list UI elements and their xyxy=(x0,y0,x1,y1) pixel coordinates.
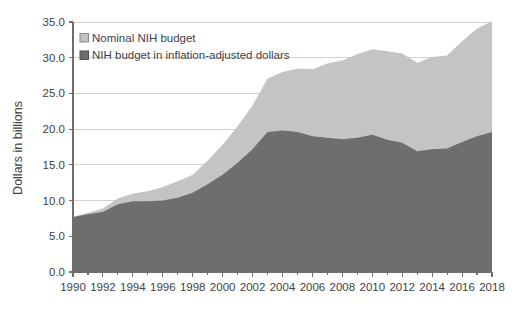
y-axis-title: Dollars in billions xyxy=(11,101,25,195)
y-axis-ticks-group: 0.05.010.015.020.025.030.035.0 xyxy=(43,16,73,278)
area-chart: 0.05.010.015.020.025.030.035.0 199019921… xyxy=(0,0,520,309)
x-tick-label-1994: 1994 xyxy=(120,281,146,293)
legend: Nominal NIH budget NIH budget in inflati… xyxy=(80,32,290,62)
y-axis-title-group: Dollars in billions xyxy=(11,101,25,195)
x-tick-label-2010: 2010 xyxy=(359,281,385,293)
x-tick-label-2000: 2000 xyxy=(210,281,236,293)
x-tick-label-2016: 2016 xyxy=(449,281,475,293)
x-tick-label-1992: 1992 xyxy=(90,281,116,293)
legend-swatch-nominal xyxy=(80,34,89,43)
legend-label-inflation-adjusted: NIH budget in inflation-adjusted dollars xyxy=(92,49,290,61)
y-tick-label-15.0: 15.0 xyxy=(43,159,65,171)
x-tick-label-2004: 2004 xyxy=(270,281,296,293)
y-tick-label-35.0: 35.0 xyxy=(43,16,65,28)
legend-label-nominal: Nominal NIH budget xyxy=(92,32,196,44)
x-tick-label-2014: 2014 xyxy=(419,281,445,293)
chart-container: 0.05.010.015.020.025.030.035.0 199019921… xyxy=(0,0,520,309)
y-tick-label-20.0: 20.0 xyxy=(43,123,65,135)
x-axis-ticks-group: 1990199219941996199820002002200420062008… xyxy=(60,272,505,293)
x-tick-label-1990: 1990 xyxy=(60,281,86,293)
x-tick-label-1996: 1996 xyxy=(150,281,176,293)
legend-swatch-inflation-adjusted xyxy=(80,51,89,60)
x-tick-label-2012: 2012 xyxy=(389,281,415,293)
y-tick-label-5.0: 5.0 xyxy=(49,230,65,242)
x-tick-label-1998: 1998 xyxy=(180,281,206,293)
x-tick-label-2006: 2006 xyxy=(300,281,326,293)
x-tick-label-2002: 2002 xyxy=(240,281,266,293)
y-tick-label-0.0: 0.0 xyxy=(49,266,65,278)
x-tick-label-2018: 2018 xyxy=(479,281,505,293)
x-tick-label-2008: 2008 xyxy=(330,281,356,293)
y-tick-label-30.0: 30.0 xyxy=(43,52,65,64)
y-tick-label-25.0: 25.0 xyxy=(43,87,65,99)
y-tick-label-10.0: 10.0 xyxy=(43,195,65,207)
